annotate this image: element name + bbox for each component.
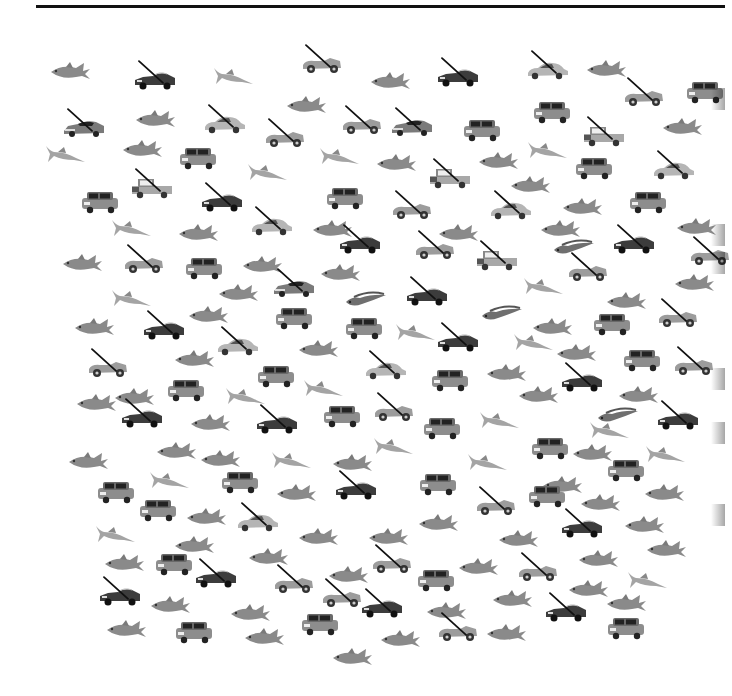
mini-car-icon[interactable] [604, 458, 648, 482]
fish-icon[interactable] [416, 512, 460, 536]
sports-car-icon[interactable] [272, 276, 316, 300]
marlin-icon[interactable] [524, 138, 568, 162]
fish-icon[interactable] [584, 58, 628, 82]
pickup-truck-icon[interactable] [582, 124, 626, 148]
fish-icon[interactable] [102, 552, 146, 576]
fish-icon[interactable] [284, 94, 328, 118]
fish-icon[interactable] [484, 362, 528, 386]
fish-icon[interactable] [560, 196, 604, 220]
mini-car-icon[interactable] [152, 552, 196, 576]
convertible-car-icon[interactable] [560, 516, 604, 540]
mini-car-icon[interactable] [172, 620, 216, 644]
fish-icon[interactable] [154, 440, 198, 464]
convertible-car-icon[interactable] [436, 330, 480, 354]
fish-icon[interactable] [436, 222, 480, 246]
fish-icon[interactable] [660, 116, 704, 140]
fish-icon[interactable] [216, 282, 260, 306]
fish-icon[interactable] [48, 60, 92, 84]
fish-icon[interactable] [330, 646, 374, 670]
fish-icon[interactable] [604, 290, 648, 314]
mini-car-icon[interactable] [182, 256, 226, 280]
fish-icon[interactable] [484, 622, 528, 646]
coupe-car-icon[interactable] [216, 334, 260, 358]
marlin-icon[interactable] [464, 450, 508, 474]
coupe-car-icon[interactable] [250, 214, 294, 238]
fish-icon[interactable] [456, 556, 500, 580]
convertible-car-icon[interactable] [338, 232, 382, 256]
mini-car-icon[interactable] [136, 498, 180, 522]
mini-car-icon[interactable] [416, 472, 460, 496]
fish-icon[interactable] [133, 108, 177, 132]
roadster-car-icon[interactable] [370, 552, 414, 576]
fish-icon[interactable] [496, 528, 540, 552]
roadster-car-icon[interactable] [86, 356, 130, 380]
fish-icon[interactable] [228, 602, 272, 626]
fish-icon[interactable] [578, 492, 622, 516]
roadster-car-icon[interactable] [390, 198, 434, 222]
fish-icon[interactable] [374, 152, 418, 176]
marlin-icon[interactable] [268, 448, 312, 472]
fish-icon[interactable] [296, 526, 340, 550]
fish-icon[interactable] [576, 548, 620, 572]
roadster-car-icon[interactable] [622, 85, 666, 109]
mini-car-icon[interactable] [528, 436, 572, 460]
roadster-car-icon[interactable] [688, 244, 732, 268]
roadster-car-icon[interactable] [566, 260, 610, 284]
coupe-car-icon[interactable] [203, 112, 247, 136]
roadster-car-icon[interactable] [372, 400, 416, 424]
fish-icon[interactable] [198, 448, 242, 472]
mini-car-icon[interactable] [272, 306, 316, 330]
marlin-icon[interactable] [42, 142, 86, 166]
eel-fish-icon[interactable] [480, 302, 524, 326]
convertible-car-icon[interactable] [194, 566, 238, 590]
mini-car-icon[interactable] [414, 568, 458, 592]
fish-icon[interactable] [326, 564, 370, 588]
pickup-truck-icon[interactable] [130, 176, 174, 200]
mini-car-icon[interactable] [94, 480, 138, 504]
marlin-icon[interactable] [210, 64, 254, 88]
roadster-car-icon[interactable] [300, 52, 344, 76]
fish-icon[interactable] [516, 384, 560, 408]
coupe-car-icon[interactable] [489, 198, 533, 222]
eel-fish-icon[interactable] [344, 288, 388, 312]
roadster-car-icon[interactable] [516, 560, 560, 584]
roadster-car-icon[interactable] [272, 572, 316, 596]
mini-car-icon[interactable] [298, 612, 342, 636]
convertible-car-icon[interactable] [200, 190, 244, 214]
pickup-truck-icon[interactable] [475, 248, 519, 272]
fish-icon[interactable] [672, 272, 716, 296]
mini-car-icon[interactable] [176, 146, 220, 170]
roadster-car-icon[interactable] [656, 306, 700, 330]
fish-icon[interactable] [368, 70, 412, 94]
fish-icon[interactable] [644, 538, 688, 562]
fish-icon[interactable] [72, 316, 116, 340]
convertible-car-icon[interactable] [544, 600, 588, 624]
convertible-car-icon[interactable] [560, 370, 604, 394]
marlin-icon[interactable] [108, 286, 152, 310]
roadster-car-icon[interactable] [672, 354, 716, 378]
fish-icon[interactable] [330, 452, 374, 476]
fish-icon[interactable] [366, 526, 410, 550]
mini-car-icon[interactable] [420, 416, 464, 440]
mini-car-icon[interactable] [572, 156, 616, 180]
roadster-car-icon[interactable] [263, 126, 307, 150]
fish-icon[interactable] [296, 338, 340, 362]
coupe-car-icon[interactable] [652, 158, 696, 182]
sports-car-icon[interactable] [62, 116, 106, 140]
coupe-car-icon[interactable] [364, 358, 408, 382]
roadster-car-icon[interactable] [320, 586, 364, 610]
mini-car-icon[interactable] [323, 186, 367, 210]
fish-icon[interactable] [476, 150, 520, 174]
roadster-car-icon[interactable] [340, 113, 384, 137]
marlin-icon[interactable] [300, 376, 344, 400]
fish-icon[interactable] [378, 628, 422, 652]
fish-icon[interactable] [184, 506, 228, 530]
marlin-icon[interactable] [476, 408, 520, 432]
convertible-car-icon[interactable] [255, 412, 299, 436]
mini-car-icon[interactable] [320, 404, 364, 428]
fish-icon[interactable] [508, 174, 552, 198]
fish-icon[interactable] [318, 262, 362, 286]
convertible-car-icon[interactable] [436, 65, 480, 89]
marlin-icon[interactable] [520, 274, 564, 298]
convertible-car-icon[interactable] [656, 408, 700, 432]
